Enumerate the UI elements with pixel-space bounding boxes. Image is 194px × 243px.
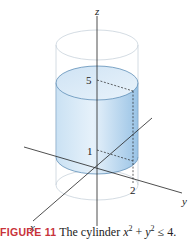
caption-relation: ≤ 4. [155, 225, 177, 239]
caption-plus: + [133, 225, 146, 239]
cylinder-diagram: z y x 5 1 2 [0, 0, 194, 243]
figure-number: FIGURE 11 [0, 226, 56, 238]
y-axis-label: y [181, 195, 187, 207]
caption-text: The cylinder [59, 225, 123, 239]
z-tick-5: 5 [86, 74, 92, 86]
figure-caption: FIGURE 11 The cylinder x2 + y2 ≤ 4. [0, 224, 194, 240]
z-tick-1: 1 [87, 145, 93, 157]
z-axis-label: z [94, 5, 100, 17]
y-tick-2: 2 [130, 184, 136, 196]
